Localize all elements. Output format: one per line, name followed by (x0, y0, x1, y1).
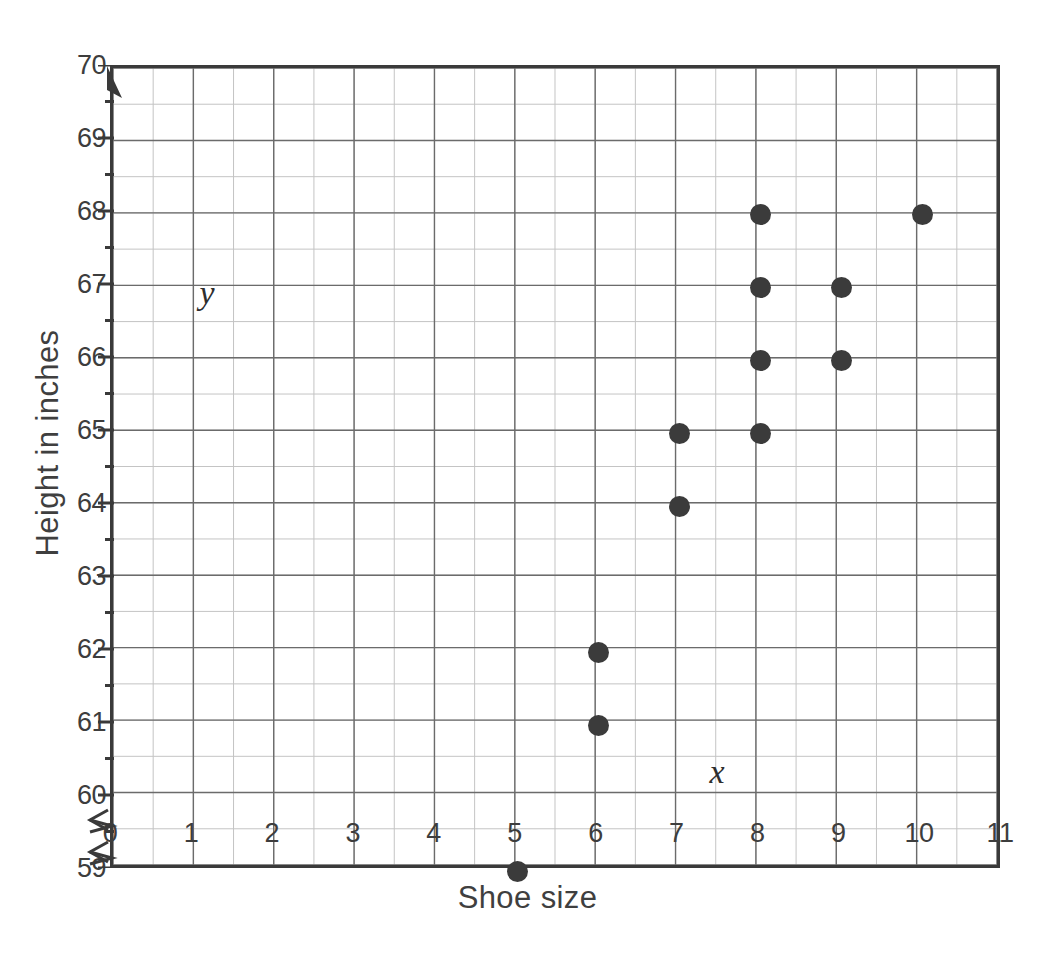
x-tick-label-8: 8 (727, 818, 787, 849)
x-tick-label-4: 4 (404, 818, 464, 849)
x-tick-label-7: 7 (646, 818, 706, 849)
x-tick-label-5: 5 (485, 818, 545, 849)
data-point (750, 204, 771, 225)
x-variable-label: x (709, 753, 724, 791)
x-tick-label-3: 3 (323, 818, 383, 849)
data-point (831, 277, 852, 298)
x-axis-tick-labels: 01234567891011 (110, 818, 1000, 858)
data-point (669, 423, 690, 444)
x-tick-label-9: 9 (808, 818, 868, 849)
data-point (750, 277, 771, 298)
y-axis-tick-marks (96, 65, 116, 868)
data-point (750, 423, 771, 444)
data-point (912, 204, 933, 225)
x-tick-label-11: 11 (970, 818, 1030, 849)
data-point (588, 642, 609, 663)
scatter-plot-figure: Height in inches 59606162636465666768697… (0, 0, 1055, 956)
plot-area (110, 65, 1000, 868)
data-point (831, 350, 852, 371)
data-point (588, 715, 609, 736)
x-tick-label-6: 6 (565, 818, 625, 849)
x-tick-label-10: 10 (889, 818, 949, 849)
x-tick-label-1: 1 (161, 818, 221, 849)
grid-lines (113, 68, 997, 865)
x-axis-title: Shoe size (0, 880, 1055, 916)
y-axis-arrow-icon (102, 64, 126, 104)
x-tick-label-2: 2 (242, 818, 302, 849)
data-point (750, 350, 771, 371)
y-variable-label: y (199, 274, 214, 312)
data-point (669, 496, 690, 517)
data-point (507, 861, 528, 882)
